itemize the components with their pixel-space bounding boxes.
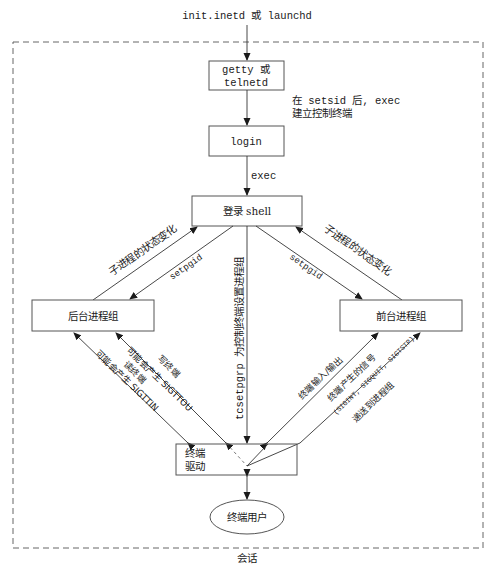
svg-text:终端: 终端 <box>185 447 206 459</box>
foreground-group-node: 前台进程组 <box>340 300 462 331</box>
arrow-bg-to-shell <box>93 227 197 300</box>
svg-text:终端用户: 终端用户 <box>227 511 267 523</box>
tcsetpgrp-label: tcsetpgrp 为控制终端设置进程组 <box>233 256 246 420</box>
svg-text:login: login <box>230 136 262 148</box>
terminal-driver-node: 终端 驱动 <box>176 444 297 475</box>
svg-text:驱动: 驱动 <box>185 460 205 472</box>
sigttin-label: 可能会产生 SIGTTIN <box>94 348 161 414</box>
svg-text:登录 shell: 登录 shell <box>223 205 272 217</box>
session-diagram: init.inetd 或 launchd getty 或 telnetd 在 s… <box>0 0 488 576</box>
svg-text:后台进程组: 后台进程组 <box>68 310 119 322</box>
exec-label: exec <box>251 170 276 182</box>
terminal-user-node: 终端用户 <box>210 500 284 534</box>
login-node: login <box>209 126 284 156</box>
getty-node: getty 或 telnetd <box>209 61 284 90</box>
setsid-exec-label: 在 setsid 后, exec <box>292 95 400 107</box>
svg-text:getty 或: getty 或 <box>222 64 271 76</box>
login-shell-node: 登录 shell <box>192 196 302 226</box>
arrow-shell-to-bg <box>130 226 233 299</box>
bg-setpgid-label: setpgid <box>168 253 205 283</box>
bg-child-status-label: 子进程的状态变化 <box>106 221 179 277</box>
svg-text:telnetd: telnetd <box>224 77 268 89</box>
svg-text:前台进程组: 前台进程组 <box>376 310 427 322</box>
controlling-terminal-label: 建立控制终端 <box>292 107 353 119</box>
background-group-node: 后台进程组 <box>32 300 154 331</box>
fg-setpgid-label: setpgid <box>287 252 324 282</box>
init-label: init.inetd 或 launchd <box>182 10 312 22</box>
session-label: 会话 <box>237 552 258 564</box>
